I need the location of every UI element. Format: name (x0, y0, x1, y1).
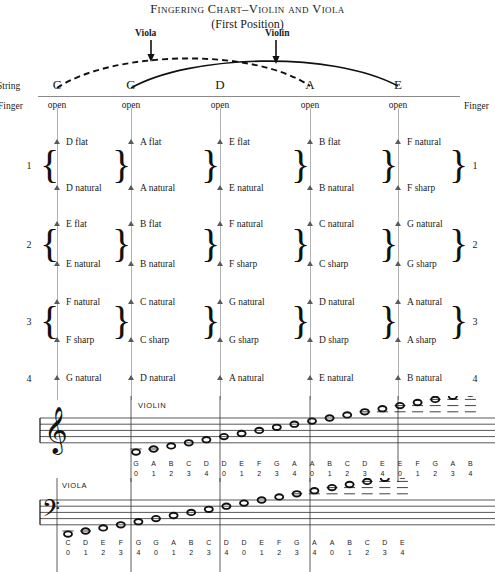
note-marker-A-3-top (307, 299, 313, 304)
staff-pitch-viola-3-3: D (377, 539, 393, 546)
staff-finger-violin-3-0: 0 (392, 470, 408, 477)
note-head-A (170, 513, 178, 518)
staff-finger-violin-3-4: 4 (462, 470, 478, 477)
staff-finger-viola-3-4: 4 (394, 549, 410, 556)
note-label-E-1-top: F natural (407, 137, 441, 147)
note-marker-A-1-bottom (307, 185, 313, 190)
staff-finger-violin-2-4: 4 (374, 470, 390, 477)
instrument-range-arcs (0, 0, 495, 100)
cell-brace-C-2: } (112, 224, 131, 264)
note-marker-C-3-top (54, 299, 60, 304)
note-label-A-2-top: C natural (319, 219, 354, 229)
note-marker-C-4-top (54, 375, 60, 380)
finger-number-left-2: 2 (22, 239, 36, 250)
finger-number-right-2: 2 (468, 239, 482, 250)
cell-brace-C-3: } (112, 301, 131, 341)
note-marker-A-3-bottom (307, 337, 313, 342)
cell-brace-D-3: } (291, 301, 310, 341)
staff-finger-violin-1-1: 1 (234, 470, 250, 477)
note-label-D-4-top: A natural (229, 373, 264, 383)
note-label-E-2-bottom: G sharp (407, 259, 437, 269)
staff-finger-violin-1-0: 0 (216, 470, 232, 477)
cell-brace-G-1: } (201, 145, 220, 185)
staff-pitch-viola-1-0: G (148, 539, 164, 546)
note-label-C-3-top: F natural (66, 297, 100, 307)
staff-finger-viola-2-4: 4 (306, 549, 322, 556)
staff-pitch-violin-0-4: D (198, 460, 214, 467)
fingering-chart-page: Fingering Chart–Violin and Viola (First … (0, 0, 495, 572)
note-head-C (343, 412, 351, 417)
cell-brace-E-1: } (449, 145, 468, 185)
staff-pitch-violin-2-2: C (339, 460, 355, 467)
staff-finger-viola-2-0: 0 (236, 549, 252, 556)
note-label-G-1-top: A flat (140, 137, 161, 147)
note-label-G-3-top: C natural (140, 297, 175, 307)
staff-finger-violin-0-0: 0 (128, 470, 144, 477)
violin-range-arc (131, 61, 398, 88)
staff-pitch-violin-3-0: E (392, 460, 408, 467)
staff-finger-violin-0-3: 3 (181, 470, 197, 477)
note-head-D (240, 500, 248, 505)
staff-pitch-viola-0-0: C (60, 539, 76, 546)
staff-pitch-violin-1-4: A (286, 460, 302, 467)
staff-finger-viola-0-2: 2 (95, 549, 111, 556)
note-marker-D-3-top (217, 299, 223, 304)
note-label-D-1-top: E flat (229, 137, 250, 147)
staff-finger-violin-1-2: 2 (251, 470, 267, 477)
string-name-D: D (205, 77, 235, 93)
note-marker-A-1-top (307, 139, 313, 144)
note-head-G (134, 519, 142, 524)
note-marker-C-1-top (54, 139, 60, 144)
note-marker-E-3-top (395, 299, 401, 304)
staff-pitch-violin-0-0: G (128, 460, 144, 467)
note-label-G-1-bottom: A natural (140, 183, 175, 193)
note-marker-D-4-top (217, 375, 223, 380)
note-head-A (449, 396, 457, 399)
staff-pitch-violin-1-3: G (269, 460, 285, 467)
treble-clef-icon: 𝄞 (44, 406, 68, 455)
cell-brace-D-2: } (291, 224, 310, 264)
note-marker-C-3-bottom (54, 337, 60, 342)
staff-finger-viola-2-1: 1 (254, 549, 270, 556)
string-name-C: C (42, 77, 72, 93)
header-divider (38, 96, 460, 97)
finger-number-right-3: 3 (468, 316, 482, 327)
staff-finger-viola-0-4: 4 (130, 549, 146, 556)
note-marker-C-2-top (54, 221, 60, 226)
note-label-C-1-bottom: D natural (66, 183, 102, 193)
note-label-D-3-bottom: G sharp (229, 335, 259, 345)
staff-finger-viola-0-1: 1 (78, 549, 94, 556)
staff-finger-viola-0-0: 0 (60, 549, 76, 556)
staff-pitch-violin-2-1: B (322, 460, 338, 467)
staff-finger-violin-2-1: 1 (322, 470, 338, 477)
note-label-C-1-top: D flat (66, 137, 88, 147)
note-label-A-1-top: B flat (319, 137, 340, 147)
finger-row-label-left: Finger (0, 101, 23, 111)
note-head-C (64, 531, 72, 536)
note-marker-D-1-top (217, 139, 223, 144)
staff-finger-viola-0-3: 3 (113, 549, 129, 556)
staff-finger-violin-2-0: 0 (304, 470, 320, 477)
note-label-E-1-bottom: F sharp (407, 183, 435, 193)
note-marker-E-1-bottom (395, 185, 401, 190)
string-row-label: String (0, 81, 20, 91)
note-marker-A-2-bottom (307, 261, 313, 266)
staff-pitch-violin-3-3: A (445, 460, 461, 467)
staff-pitch-viola-0-3: F (113, 539, 129, 546)
staff-pitch-violin-1-1: E (234, 460, 250, 467)
staff-pitch-violin-0-1: A (146, 460, 162, 467)
staff-pitch-viola-1-1: A (166, 539, 182, 546)
staff-finger-viola-2-3: 3 (289, 549, 305, 556)
staff-pitch-viola-1-4: D (218, 539, 234, 546)
note-marker-C-1-bottom (54, 185, 60, 190)
viola-staff: 𝄢 (0, 478, 495, 572)
staff-pitch-violin-2-4: E (374, 460, 390, 467)
finger-number-left-4: 4 (22, 373, 36, 384)
row-brace-left-2: { (40, 224, 59, 264)
staff-finger-violin-0-1: 1 (146, 470, 162, 477)
note-marker-D-2-top (217, 221, 223, 226)
string-name-G: G (116, 77, 146, 93)
staff-pitch-viola-2-1: E (254, 539, 270, 546)
note-head-C (205, 507, 213, 512)
note-marker-G-2-top (128, 221, 134, 226)
